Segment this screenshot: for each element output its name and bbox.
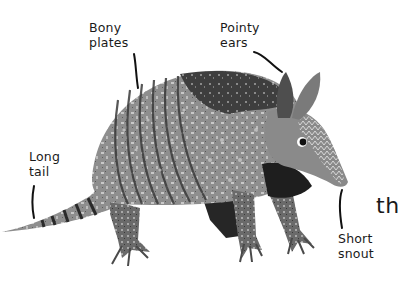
short-snout-pointer bbox=[340, 190, 342, 228]
label-short-snout: Short snout bbox=[338, 231, 374, 261]
pointy-ears-pointer bbox=[254, 52, 282, 72]
label-line: Pointy bbox=[220, 20, 260, 35]
label-line: tail bbox=[29, 164, 60, 179]
label-line: Long bbox=[29, 149, 60, 164]
bony-plates-pointer bbox=[134, 54, 138, 88]
left-ear bbox=[277, 72, 294, 118]
label-line: ears bbox=[220, 35, 260, 50]
cropped-text: th bbox=[376, 193, 400, 218]
right-ear bbox=[292, 72, 320, 120]
label-bony-plates: Bony plates bbox=[89, 20, 128, 50]
label-line: Short bbox=[338, 231, 374, 246]
armadillo-diagram: Bony plates Pointy ears Long tail Short … bbox=[0, 0, 402, 296]
label-line: snout bbox=[338, 246, 374, 261]
label-pointy-ears: Pointy ears bbox=[220, 20, 260, 50]
long-tail-pointer bbox=[33, 186, 35, 218]
front-legs bbox=[232, 190, 314, 262]
label-line: Bony bbox=[89, 20, 128, 35]
label-line: plates bbox=[89, 35, 128, 50]
label-long-tail: Long tail bbox=[29, 149, 60, 179]
